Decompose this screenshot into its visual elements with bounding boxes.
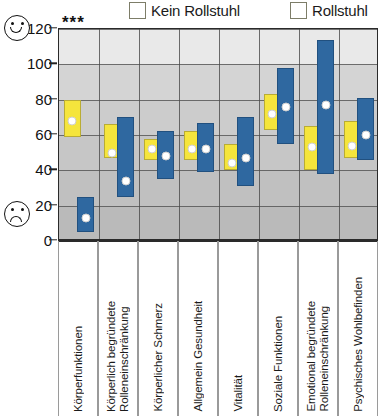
legend-label-wheelchair: Rollstuhl [312,2,368,19]
column-separator [259,29,260,239]
median-marker [161,152,170,161]
y-axis-tick-mark [49,204,57,205]
median-marker [348,141,357,150]
y-axis-tick-mark [49,239,57,240]
x-axis-category-cell: Körperlich begründete Rolleneinschränkun… [98,241,138,416]
x-axis-category-cell: Soziale Funktionen [258,241,298,416]
bar-wheelchair [357,98,374,160]
x-axis-category-cell: Körperfunktionen [58,241,98,416]
median-marker [361,131,370,140]
x-axis-category-label: Emotional begründete Rolleneinschränkung [305,301,331,412]
bar-wheelchair [237,117,254,186]
legend-entry-wheelchair: Rollstuhl [290,2,368,19]
x-axis-category-label: Körperlich begründete Rolleneinschränkun… [105,301,131,412]
chart-legend: Kein Rollstuhl Rollstuhl [0,0,385,26]
legend-entry-no-wheelchair: Kein Rollstuhl [129,2,240,19]
y-axis-tick-mark [49,98,57,99]
median-marker [121,176,130,185]
y-axis-tick-mark [49,169,57,170]
background-band [59,206,377,240]
column-separator [219,29,220,239]
column-separator [299,29,300,239]
median-marker [81,214,90,223]
column-separator [339,29,340,239]
x-axis-category-label: Körperlicher Schmerz [152,303,165,412]
chart-area: 020406080100120 *** KörperfunktionenKörp… [0,28,385,416]
x-axis-category-cell: Allgemein Gesundheit [178,241,218,416]
y-axis-tick-mark [49,63,57,64]
median-marker [281,102,290,111]
median-marker [201,145,210,154]
y-axis-tick-mark [49,133,57,134]
x-axis-labels: KörperfunktionenKörperlich begründete Ro… [58,241,378,416]
legend-label-no-wheelchair: Kein Rollstuhl [151,2,240,19]
x-axis-category-label: Vitalität [232,375,245,412]
y-axis: 020406080100120 [0,28,58,272]
median-marker [268,109,277,118]
median-marker [188,145,197,154]
gridline [59,206,377,207]
median-marker [148,145,157,154]
column-separator [139,29,140,239]
y-axis-tick-mark [49,27,57,28]
x-axis-category-cell: Emotional begründete Rolleneinschränkung [298,241,338,416]
legend-swatch-no-wheelchair [129,2,146,19]
median-marker [321,100,330,109]
column-separator [179,29,180,239]
x-axis-category-cell: Psychisches Wohlbefinden [338,241,378,416]
median-marker [68,116,77,125]
gridline [59,29,377,30]
median-marker [228,159,237,168]
x-axis-category-label: Psychisches Wohlbefinden [352,277,365,412]
median-marker [241,153,250,162]
significance-annotation: *** [62,14,85,31]
sad-face-icon [4,201,30,227]
median-marker [108,148,117,157]
background-band [59,170,377,205]
median-marker [308,143,317,152]
smiley-face-icon [4,15,30,41]
column-separator [99,29,100,239]
x-axis-category-cell: Körperlicher Schmerz [138,241,178,416]
x-axis-category-label: Soziale Funktionen [272,316,285,412]
legend-swatch-wheelchair [290,2,307,19]
x-axis-category-label: Allgemein Gesundheit [192,301,205,412]
x-axis-category-cell: Vitalität [218,241,258,416]
plot-area [58,28,378,240]
x-axis-category-label: Körperfunktionen [72,326,85,412]
